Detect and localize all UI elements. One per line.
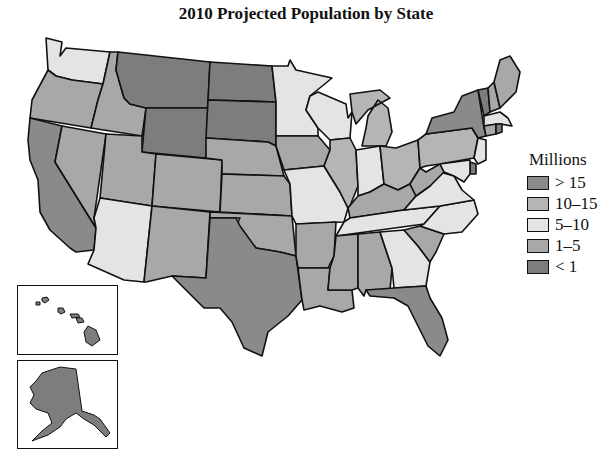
legend-swatch [527, 218, 549, 232]
hawaii-inset [17, 285, 118, 355]
alaska-inset [17, 360, 118, 449]
legend-item-gt15: > 15 [527, 172, 598, 193]
legend-item-lt1: < 1 [527, 256, 598, 277]
legend-label: 5–10 [555, 215, 589, 235]
state-ak[interactable] [30, 367, 110, 441]
state-ia[interactable] [276, 136, 330, 170]
state-hi[interactable] [36, 297, 100, 346]
legend-label: > 15 [555, 173, 586, 193]
legend-swatch [527, 176, 549, 190]
state-ny[interactable] [426, 90, 486, 138]
state-ar[interactable] [296, 222, 336, 268]
legend-swatch [527, 197, 549, 211]
state-nm[interactable] [144, 206, 210, 282]
state-az[interactable] [88, 198, 152, 282]
legend-item-5-10: 5–10 [527, 214, 598, 235]
legend: Millions > 15 10–15 5–10 1–5 < 1 [527, 150, 598, 277]
legend-label: 1–5 [555, 236, 581, 256]
state-mt[interactable] [116, 52, 210, 108]
state-ct[interactable] [484, 124, 496, 136]
legend-label: 10–15 [555, 194, 598, 214]
hawaii-map [18, 286, 118, 354]
state-ks[interactable] [220, 174, 292, 216]
legend-item-10-15: 10–15 [527, 193, 598, 214]
legend-title: Millions [529, 150, 598, 170]
state-me[interactable] [494, 56, 520, 108]
legend-swatch [527, 239, 549, 253]
state-nd[interactable] [208, 62, 276, 102]
state-mi[interactable] [350, 90, 392, 146]
legend-swatch [527, 260, 549, 274]
alaska-map [18, 361, 118, 448]
legend-label: < 1 [555, 257, 577, 277]
state-ri[interactable] [496, 124, 502, 134]
state-wy[interactable] [142, 108, 208, 158]
legend-item-1-5: 1–5 [527, 235, 598, 256]
state-fl[interactable] [366, 286, 448, 356]
state-co[interactable] [152, 154, 222, 212]
state-de[interactable] [470, 162, 476, 174]
